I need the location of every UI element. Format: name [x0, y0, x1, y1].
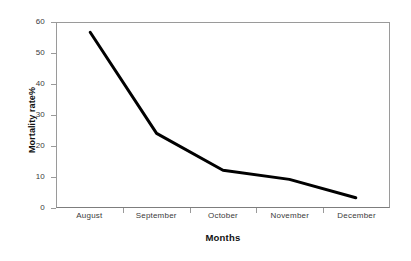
y-tick-label: 30	[36, 111, 45, 119]
y-axis-title: Mortality rate%	[27, 65, 37, 175]
line-path	[90, 32, 356, 198]
x-tick-label: December	[337, 212, 376, 220]
series-line-mortality-rate	[57, 23, 389, 207]
x-tick-label: September	[136, 212, 177, 220]
x-tick-mark	[256, 208, 257, 213]
y-tick-label: 10	[36, 173, 45, 181]
x-tick-label: November	[271, 212, 310, 220]
x-axis: AugustSeptemberOctoberNovemberDecember	[0, 212, 411, 228]
x-axis-title: Months	[56, 232, 390, 243]
y-tick-mark	[51, 208, 56, 209]
y-tick-label: 20	[36, 142, 45, 150]
y-tick-label: 0	[40, 204, 45, 212]
x-tick-mark	[123, 208, 124, 213]
x-tick-mark	[190, 208, 191, 213]
x-tick-label: October	[208, 212, 238, 220]
plot-area	[56, 22, 390, 208]
x-tick-label: August	[76, 212, 102, 220]
x-tick-mark	[323, 208, 324, 213]
y-tick-label: 40	[36, 80, 45, 88]
chart-figure: 0102030405060 Mortality rate% AugustSept…	[0, 0, 411, 261]
y-tick-label: 50	[36, 49, 45, 57]
y-tick-label: 60	[36, 18, 45, 26]
